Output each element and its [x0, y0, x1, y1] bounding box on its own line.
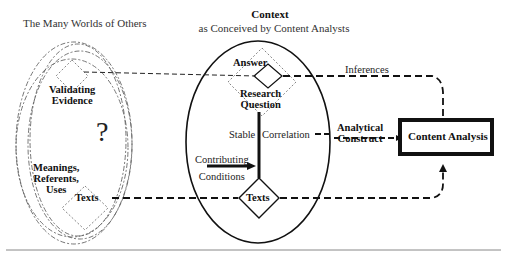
- stable-label: Stable: [229, 129, 255, 140]
- many-worlds-title: The Many Worlds of Others: [23, 18, 147, 30]
- texts-to-analysis-dashed-path: [280, 172, 443, 198]
- validating-evidence-label: Validating Evidence: [49, 84, 95, 106]
- context-texts-label: Texts: [246, 192, 270, 203]
- unknown-question-mark: ?: [96, 116, 108, 148]
- inferences-label: Inferences: [345, 64, 389, 75]
- validating-line: Validating: [49, 84, 95, 95]
- content-analysis-label: Content Analysis: [408, 131, 488, 143]
- construct-line: Construct: [337, 133, 383, 144]
- many-worlds-ellipses: [16, 42, 132, 244]
- analytical-construct-label: Analytical Construct: [337, 122, 383, 144]
- diagram-canvas: [0, 0, 507, 256]
- contributing-line: Contributing: [195, 154, 249, 165]
- left-texts-label: Texts: [75, 192, 99, 203]
- conditions-line: Conditions: [195, 171, 249, 182]
- uses-line: Uses: [33, 184, 79, 195]
- analytical-line: Analytical: [337, 122, 383, 133]
- answer-label: Answer: [233, 57, 267, 68]
- context-subtitle: as Conceived by Content Analysts: [184, 23, 364, 35]
- texts-arrow-head: [439, 164, 447, 172]
- evidence-line: Evidence: [49, 95, 95, 106]
- research-question-label: Research Question: [240, 88, 281, 110]
- question-line: Question: [240, 99, 281, 110]
- research-line: Research: [240, 88, 281, 99]
- referents-line: Referents,: [33, 173, 79, 184]
- meanings-referents-uses-label: Meanings, Referents, Uses: [33, 162, 79, 195]
- correlation-label: Correlation: [262, 129, 310, 140]
- context-title: Context: [240, 9, 300, 21]
- evidence-answer-dashed: [84, 72, 256, 76]
- contributing-conditions-label: Contributing Conditions: [195, 154, 249, 182]
- meanings-line: Meanings,: [33, 162, 79, 173]
